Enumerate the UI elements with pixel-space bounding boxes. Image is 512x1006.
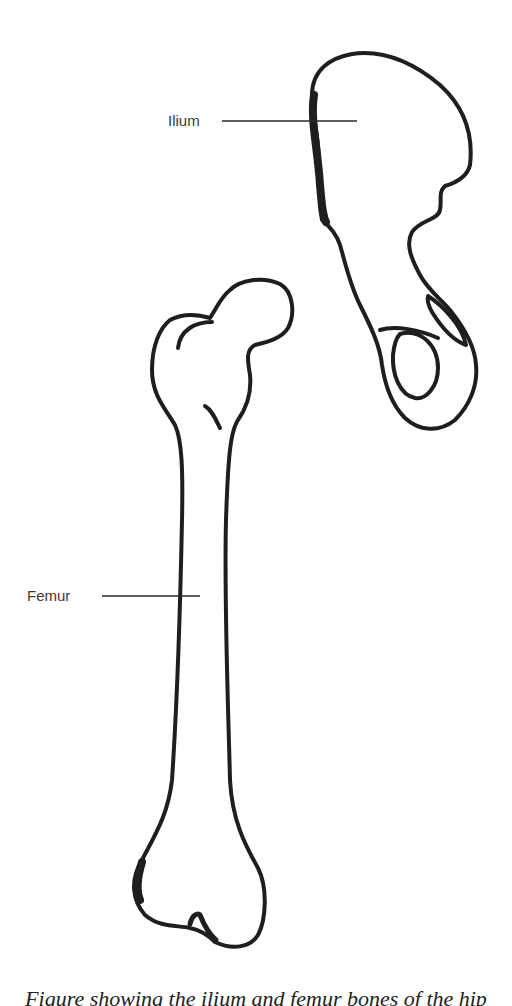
figure-caption: Figure showing the ilium and femur bones… <box>0 986 512 1006</box>
ilium-label: Ilium <box>168 113 200 128</box>
ilium-bone <box>312 53 476 429</box>
femur-bone <box>134 280 292 947</box>
femur-label: Femur <box>27 588 70 603</box>
